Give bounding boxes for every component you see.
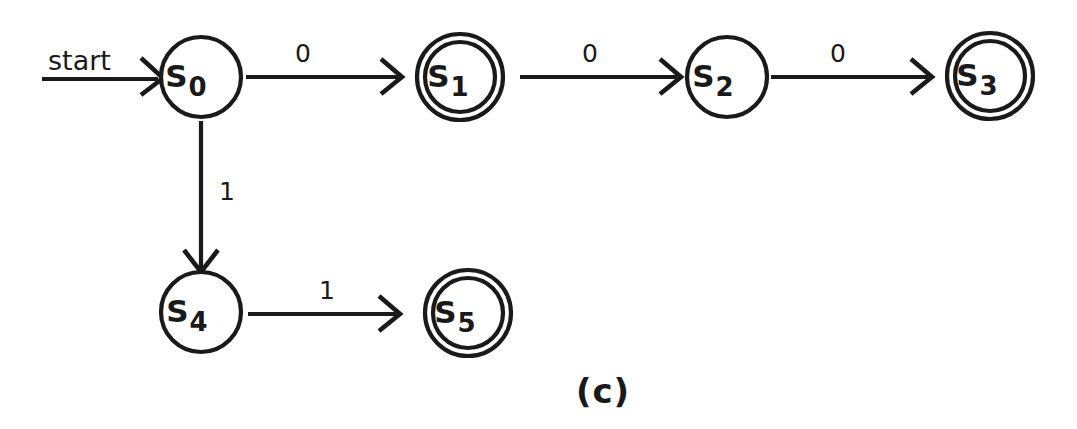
state-name-s3: S [956,57,978,93]
fsm-canvas: start 0 0 0 1 1 [0,0,1077,429]
state-subscript-s0: 0 [189,72,207,102]
state-name-s5: S [434,294,456,330]
state-name-s1: S [427,58,449,94]
state-node-s3[interactable]: S3 [947,33,1033,119]
state-subscript-s1: 1 [451,72,469,102]
transition-label-s2-s3: 0 [830,39,846,68]
state-name-s2: S [692,58,714,94]
state-node-s5[interactable]: S5 [425,270,511,356]
state-node-s0[interactable]: S0 [161,37,241,117]
figure-caption: (c) [576,371,630,411]
transition-label-s0-s1: 0 [295,39,311,68]
transition-s1-s2: 0 [520,39,681,94]
state-node-s1[interactable]: S1 [417,34,503,120]
fsm-figure: start 0 0 0 1 1 [0,0,1077,429]
transition-s0-s1: 0 [246,39,402,94]
state-name-s0: S [165,58,187,94]
state-name-s4: S [166,293,188,329]
transition-label-s4-s5: 1 [319,276,335,305]
start-arrow-group: start [42,45,163,95]
start-label: start [48,45,111,76]
transition-s2-s3: 0 [771,39,932,94]
state-node-s2[interactable]: S2 [687,37,767,117]
state-subscript-s3: 3 [980,71,998,101]
state-subscript-s2: 2 [716,72,734,102]
state-node-s4[interactable]: S4 [161,272,241,352]
state-subscript-s4: 4 [190,307,208,337]
transition-label-s0-s4: 1 [219,177,235,206]
transition-label-s1-s2: 0 [582,39,598,68]
state-subscript-s5: 5 [458,308,476,338]
transition-s0-s4: 1 [184,121,235,272]
transition-s4-s5: 1 [248,276,400,331]
